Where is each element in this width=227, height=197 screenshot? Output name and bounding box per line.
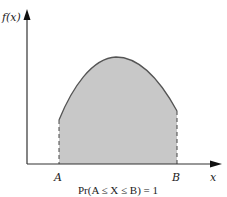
x-axis-arrow-icon (210, 161, 222, 168)
probability-area (59, 57, 177, 164)
y-axis-arrow-icon (24, 9, 31, 20)
b-label: B (171, 171, 180, 184)
caption: Pr(A ≤ X ≤ B) = 1 (78, 184, 158, 197)
density-diagram: f(x) x A B Pr(A ≤ X ≤ B) = 1 (0, 0, 227, 197)
x-axis-label: x (210, 171, 217, 184)
y-axis-label: f(x) (1, 11, 21, 24)
a-label: A (53, 171, 62, 184)
